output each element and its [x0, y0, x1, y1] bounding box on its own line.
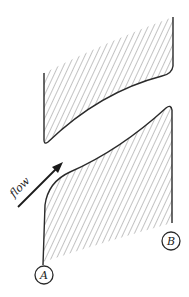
- point-a-label: A: [39, 269, 48, 282]
- point-b-marker: B: [162, 232, 180, 250]
- cascade-diagram: flow A B: [0, 0, 189, 297]
- point-a-marker: A: [35, 266, 53, 284]
- point-b-label: B: [166, 235, 175, 248]
- lower-blade: [43, 106, 172, 265]
